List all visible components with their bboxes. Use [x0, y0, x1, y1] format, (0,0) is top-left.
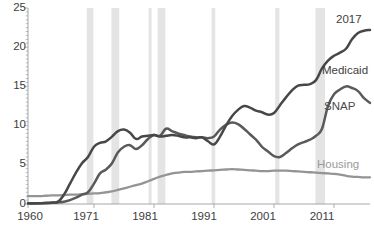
- recession-bands-layer: [87, 8, 325, 204]
- y-tick-15: 15: [0, 80, 26, 92]
- annotation-2017: 2017: [336, 14, 362, 26]
- recession-band-0: [87, 8, 94, 204]
- x-tick-1991: 1991: [182, 211, 226, 223]
- series-label-snap: SNAP: [324, 101, 355, 113]
- series-label-housing: Housing: [317, 159, 359, 171]
- y-tick-10: 10: [0, 119, 26, 131]
- series-label-medicaid: Medicaid: [322, 65, 368, 77]
- y-tick-25: 25: [0, 2, 26, 14]
- x-tick-1971: 1971: [64, 211, 108, 223]
- recession-band-4: [212, 8, 216, 204]
- recession-band-2: [149, 8, 152, 204]
- x-tick-2011: 2011: [300, 211, 344, 223]
- x-tick-1960: 1960: [8, 211, 52, 223]
- x-tick-1981: 1981: [123, 211, 167, 223]
- chart-plot-area: [0, 0, 374, 228]
- recession-band-1: [111, 8, 119, 204]
- x-tick-2001: 2001: [241, 211, 285, 223]
- y-tick-5: 5: [0, 158, 26, 170]
- line-chart: 25 20 15 10 5 0 1960 1971 1981 1991 2001…: [0, 0, 374, 228]
- y-tick-20: 20: [0, 41, 26, 53]
- y-tick-0: 0: [0, 198, 26, 210]
